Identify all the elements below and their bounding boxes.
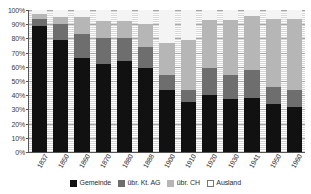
bar-segment[interactable] [74, 58, 89, 152]
bar-segment[interactable] [96, 10, 111, 21]
legend-swatch-ausland [207, 180, 214, 187]
bar-segment[interactable] [117, 61, 132, 152]
bar-segment[interactable] [159, 43, 174, 76]
y-tick-label: 20% [12, 120, 25, 127]
bars-layer [29, 10, 305, 152]
bar-segment[interactable] [74, 17, 89, 34]
y-tick-label: 30% [12, 106, 25, 113]
bar-segment[interactable] [117, 21, 132, 38]
bar-segment[interactable] [74, 34, 89, 58]
x-tick-label: 1860 [78, 153, 92, 170]
bar-segment[interactable] [53, 24, 68, 40]
y-tick-label: 0% [15, 149, 25, 156]
plot-area [28, 10, 305, 153]
bar-segment[interactable] [117, 38, 132, 61]
x-tick-label: 1960 [290, 153, 304, 170]
bar-segment[interactable] [96, 64, 111, 152]
chart-legend: Gemeindeübr. Kt. AGübr. CHAusland [0, 176, 311, 190]
bar-segment[interactable] [138, 24, 153, 47]
x-tick-label: 1837 [35, 153, 49, 170]
bar-segment[interactable] [117, 10, 132, 21]
bar-segment[interactable] [266, 104, 281, 152]
bar-segment[interactable] [244, 98, 259, 152]
legend-swatch-kt-ag [118, 180, 125, 187]
bar-segment[interactable] [53, 10, 68, 17]
bar-column[interactable] [159, 10, 174, 152]
x-tick-label: 1888 [142, 153, 156, 170]
bar-segment[interactable] [244, 70, 259, 98]
x-tick-label: 1850 [57, 153, 71, 170]
x-tick-label: 1900 [163, 153, 177, 170]
y-tick-label: 80% [12, 35, 25, 42]
legend-label: übr. Kt. AG [128, 179, 161, 187]
bar-segment[interactable] [32, 26, 47, 152]
bar-column[interactable] [223, 10, 238, 152]
legend-label: Gemeinde [80, 179, 112, 187]
bar-segment[interactable] [138, 68, 153, 152]
x-tick-label: 1870 [99, 153, 113, 170]
y-tick-label: 100% [8, 7, 25, 14]
bar-segment[interactable] [53, 40, 68, 152]
bar-segment[interactable] [32, 19, 47, 26]
x-tick-label: 1920 [205, 153, 219, 170]
x-tick-label: 1910 [184, 153, 198, 170]
bar-segment[interactable] [287, 90, 302, 107]
y-tick-label: 10% [12, 134, 25, 141]
legend-item[interactable]: übr. CH [167, 179, 200, 187]
bar-column[interactable] [266, 10, 281, 152]
bar-segment[interactable] [287, 19, 302, 90]
bar-column[interactable] [74, 10, 89, 152]
legend-item[interactable]: übr. Kt. AG [118, 179, 160, 187]
bar-segment[interactable] [266, 19, 281, 87]
legend-item[interactable]: Ausland [207, 179, 241, 187]
bar-segment[interactable] [138, 10, 153, 24]
y-tick-label: 40% [12, 92, 25, 99]
bar-segment[interactable] [159, 10, 174, 43]
bar-segment[interactable] [287, 107, 302, 152]
bar-column[interactable] [32, 10, 47, 152]
bar-column[interactable] [96, 10, 111, 152]
bar-segment[interactable] [159, 90, 174, 152]
x-tick-label: 1941 [248, 153, 262, 170]
bar-segment[interactable] [74, 10, 89, 17]
bar-column[interactable] [202, 10, 217, 152]
bar-column[interactable] [181, 10, 196, 152]
legend-item[interactable]: Gemeinde [70, 179, 111, 187]
bar-segment[interactable] [266, 87, 281, 104]
x-axis: 1837185018601870188018881900191019201930… [28, 153, 304, 177]
bar-column[interactable] [117, 10, 132, 152]
plot-wrapper: 0%10%20%30%40%50%60%70%80%90%100% 183718… [0, 0, 311, 160]
bar-segment[interactable] [287, 10, 302, 19]
bar-segment[interactable] [181, 102, 196, 152]
x-tick-label: 1930 [227, 153, 241, 170]
y-axis: 0%10%20%30%40%50%60%70%80%90%100% [0, 0, 27, 160]
bar-column[interactable] [138, 10, 153, 152]
bar-segment[interactable] [181, 10, 196, 40]
y-tick-label: 70% [12, 49, 25, 56]
bar-segment[interactable] [96, 38, 111, 64]
bar-segment[interactable] [223, 20, 238, 75]
bar-segment[interactable] [202, 95, 217, 152]
legend-swatch-gemeinde [70, 180, 77, 187]
bar-segment[interactable] [223, 75, 238, 99]
bar-segment[interactable] [53, 17, 68, 24]
bar-segment[interactable] [181, 90, 196, 103]
bar-segment[interactable] [96, 21, 111, 38]
legend-label: übr. CH [177, 179, 200, 187]
bar-segment[interactable] [202, 10, 217, 20]
bar-segment[interactable] [159, 75, 174, 89]
bar-segment[interactable] [138, 47, 153, 68]
bar-column[interactable] [287, 10, 302, 152]
bar-segment[interactable] [202, 68, 217, 95]
bar-segment[interactable] [202, 20, 217, 68]
bar-segment[interactable] [244, 16, 259, 70]
y-tick-label: 50% [12, 78, 25, 85]
bar-column[interactable] [53, 10, 68, 152]
bar-column[interactable] [244, 10, 259, 152]
stacked-bar-chart: 0%10%20%30%40%50%60%70%80%90%100% 183718… [0, 0, 311, 194]
bar-segment[interactable] [181, 40, 196, 90]
x-tick-label: 1950 [269, 153, 283, 170]
bar-segment[interactable] [223, 99, 238, 152]
bar-segment[interactable] [223, 10, 238, 20]
bar-segment[interactable] [266, 10, 281, 19]
